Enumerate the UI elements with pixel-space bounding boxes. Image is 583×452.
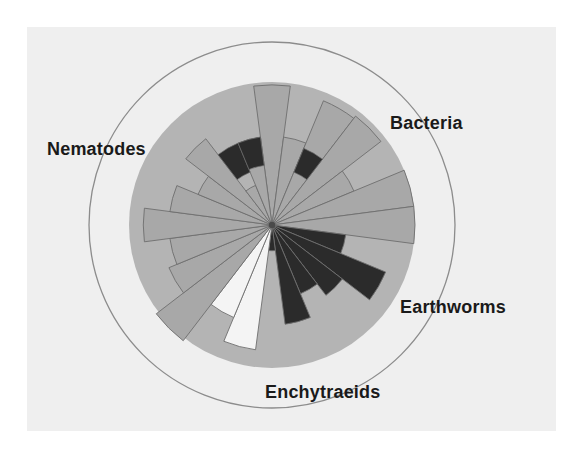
axis-label-nematodes: Nematodes bbox=[47, 139, 146, 160]
axis-label-enchytraeids: Enchytraeids bbox=[265, 382, 380, 403]
rose-chart-figure: Nematodes Bacteria Earthworms Enchytraei… bbox=[0, 0, 583, 452]
axis-label-bacteria: Bacteria bbox=[390, 113, 463, 134]
chart-center-hub bbox=[269, 222, 275, 228]
axis-label-earthworms: Earthworms bbox=[400, 297, 506, 318]
